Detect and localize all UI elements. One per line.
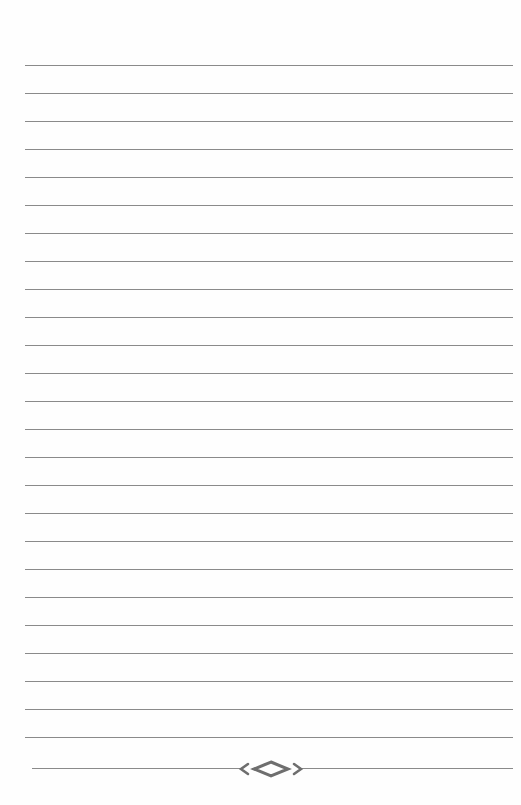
- diamond-flourish-icon: [238, 758, 304, 780]
- ornament-line-left: [32, 768, 240, 769]
- ruled-line: [25, 121, 513, 122]
- ruled-line: [25, 261, 513, 262]
- ruled-line: [25, 373, 513, 374]
- ruled-line: [25, 569, 513, 570]
- ruled-line: [25, 429, 513, 430]
- ruled-line: [25, 625, 513, 626]
- ruled-line: [25, 681, 513, 682]
- ruled-line: [25, 737, 513, 738]
- ruled-line: [25, 485, 513, 486]
- ruled-line: [25, 597, 513, 598]
- ruled-line: [25, 233, 513, 234]
- notebook-page: [0, 0, 521, 805]
- ruled-line: [25, 289, 513, 290]
- ruled-line: [25, 65, 513, 66]
- ruled-line: [25, 345, 513, 346]
- ruled-line: [25, 401, 513, 402]
- ruled-line: [25, 93, 513, 94]
- ruled-line: [25, 177, 513, 178]
- ruled-line: [25, 513, 513, 514]
- ruled-line: [25, 205, 513, 206]
- ruled-line: [25, 653, 513, 654]
- ruled-line: [25, 149, 513, 150]
- ornament-line-right: [302, 768, 513, 769]
- ruled-line: [25, 541, 513, 542]
- ruled-line: [25, 457, 513, 458]
- ruled-line: [25, 709, 513, 710]
- ruled-line: [25, 317, 513, 318]
